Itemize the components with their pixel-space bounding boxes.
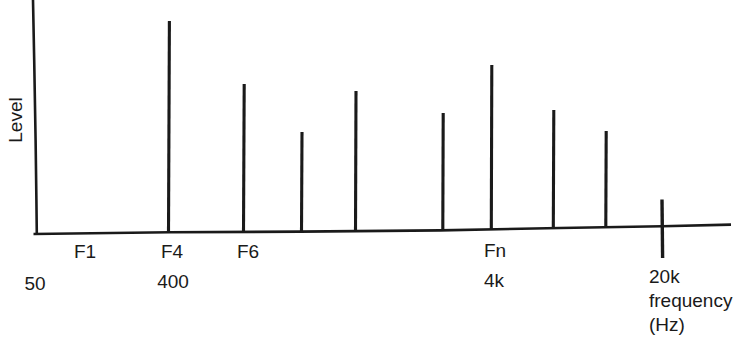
x-tick-label-f6: F6 xyxy=(237,241,259,262)
x-value-label-20k: 20k xyxy=(649,266,680,287)
x-tick-label-f4: F4 xyxy=(161,241,184,262)
y-axis-line xyxy=(33,0,37,234)
x-axis-unit-frequency: frequency xyxy=(649,290,733,311)
spectral-lines xyxy=(169,21,663,258)
x-tick-label-f1: F1 xyxy=(74,241,96,262)
spectrum-figure: Level F1 F4 F6 Fn 50 400 4k 20k frequenc… xyxy=(0,0,747,340)
x-value-label-50: 50 xyxy=(24,273,45,294)
x-axis-baseline xyxy=(34,225,732,234)
spectral-line-f4 xyxy=(169,21,170,232)
x-axis-unit-hz: (Hz) xyxy=(649,314,685,335)
x-tick-label-fn: Fn xyxy=(484,240,506,261)
spectrum-chart-svg: Level F1 F4 F6 Fn 50 400 4k 20k frequenc… xyxy=(0,0,747,340)
spectral-line-f6 xyxy=(244,84,245,232)
x-value-label-4k: 4k xyxy=(484,270,505,291)
y-axis-label: Level xyxy=(5,97,26,142)
chart-axes xyxy=(33,0,731,234)
axis-end-tick-20k xyxy=(662,200,663,259)
spectral-line-4 xyxy=(356,91,357,231)
spectral-line-3 xyxy=(302,132,303,232)
spectral-line-7 xyxy=(553,110,554,228)
spectral-line-fn xyxy=(491,65,492,230)
x-value-label-400: 400 xyxy=(157,271,189,292)
